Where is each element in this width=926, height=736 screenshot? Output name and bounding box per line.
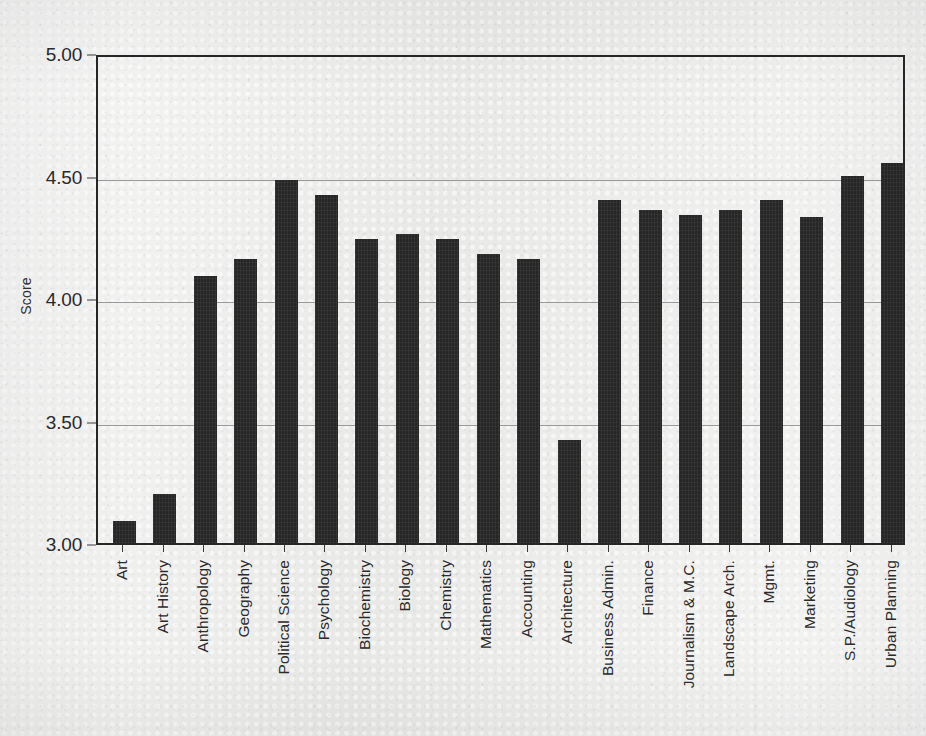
x-tick-label-text: Anthropology [194,560,212,653]
x-tick-label: Landscape Arch. [721,560,737,736]
x-tick-label: Business Admin. [600,560,616,736]
x-tick-label-text: Biochemistry [356,560,374,650]
x-tick-label: Journalism & M.C. [681,560,697,736]
x-tick-label-text: Art [113,560,131,580]
y-tick-label: 4.00 [16,289,82,311]
y-tick-mark [87,422,96,423]
x-tick-label-text: S.P./Audiology [841,560,859,661]
x-tick-label-text: Journalism & M.C. [680,560,698,688]
y-tick-label: 3.50 [16,412,82,434]
x-tick-label: Chemistry [438,560,454,736]
x-tick-label-text: Landscape Arch. [720,560,738,677]
x-tick-label-text: Business Admin. [599,560,617,676]
x-tick-label-text: Urban Planning [882,560,900,668]
x-tick-label-text: Biology [396,560,414,612]
x-tick-label-text: Accounting [518,560,536,638]
x-tick-label-text: Marketing [801,560,819,629]
x-tick-label: Art History [155,560,171,736]
x-tick-label: Biochemistry [357,560,373,736]
x-tick-label-text: Chemistry [437,560,455,631]
x-tick-label: Marketing [802,560,818,736]
y-tick-mark [87,55,96,56]
y-tick-label: 4.50 [16,167,82,189]
y-tick-mark [87,300,96,301]
x-tick-label-text: Psychology [315,560,333,640]
x-tick-label-text: Political Science [275,560,293,675]
bar [760,200,783,543]
y-tick-label: 3.00 [16,534,82,556]
x-tick-label: Art [114,560,130,736]
x-tick-label-text: Geography [235,560,253,638]
x-tick-label-text: Mathematics [477,560,495,649]
x-tick-label-text: Art History [154,560,172,633]
x-tick-label: Mgmt. [761,560,777,736]
x-tick-label: S.P./Audiology [842,560,858,736]
x-tick-label-text: Architecture [558,560,576,644]
x-tick-label-text: Finance [639,560,657,616]
y-tick-mark [87,545,96,546]
bar [396,234,419,543]
x-tick-label: Biology [397,560,413,736]
x-tick-label: Urban Planning [883,560,899,736]
x-tick-label: Psychology [316,560,332,736]
x-tick-label: Accounting [519,560,535,736]
y-tick-label: 5.00 [16,44,82,66]
x-tick-label: Mathematics [478,560,494,736]
y-tick-mark [87,177,96,178]
x-tick-label: Anthropology [195,560,211,736]
x-tick-label-text: Mgmt. [760,560,778,604]
x-tick-label: Geography [236,560,252,736]
x-tick-label: Finance [640,560,656,736]
bar [639,210,662,543]
x-tick-label: Political Science [276,560,292,736]
x-tick-label: Architecture [559,560,575,736]
bar-chart: Score 5.004.504.003.503.00 ArtArt Histor… [0,0,926,736]
